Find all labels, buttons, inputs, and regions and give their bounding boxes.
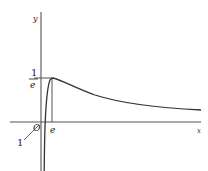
y-axis-label: y <box>32 14 38 23</box>
plot-canvas: y x 1 e O e 1 <box>0 0 208 171</box>
x-tick-one: 1 <box>17 137 23 148</box>
x-axis-label: x <box>197 127 201 135</box>
function-plot: y x 1 e O e 1 <box>0 0 208 171</box>
function-curve <box>44 78 201 171</box>
x-tick-e: e <box>50 125 55 135</box>
y-tick-numerator: 1 <box>31 67 37 78</box>
y-tick-denominator: e <box>30 80 35 90</box>
origin-label: O <box>33 123 41 133</box>
